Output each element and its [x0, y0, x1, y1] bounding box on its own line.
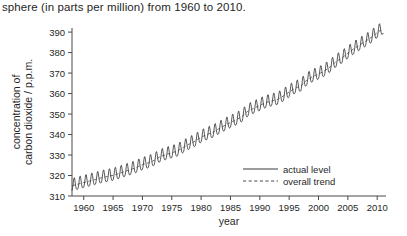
y-tick-label: 390 [49, 27, 65, 38]
chart-legend: actual level overall trend [243, 164, 335, 187]
x-axis-title: year [219, 215, 240, 227]
y-axis: 310320330340350360370380390 [49, 27, 72, 202]
x-tick-label: 2010 [367, 202, 388, 213]
legend-label-overall-trend: overall trend [283, 176, 335, 187]
x-tick-label: 1995 [279, 202, 300, 213]
y-tick-label: 310 [49, 191, 65, 202]
x-axis-tick-labels: 1960196519701975198019851990199520002005… [73, 202, 388, 213]
y-axis-tick-labels: 310320330340350360370380390 [49, 27, 65, 202]
x-tick-label: 1965 [103, 202, 124, 213]
y-tick-label: 340 [49, 129, 65, 140]
y-tick-label: 360 [49, 88, 65, 99]
figure-caption: sphere (in parts per million) from 1960 … [2, 1, 246, 13]
series-actual-level [72, 24, 383, 191]
x-tick-label: 1980 [191, 202, 212, 213]
x-axis-ticks [84, 196, 377, 200]
x-tick-label: 1990 [249, 202, 270, 213]
legend-label-actual-level: actual level [283, 164, 331, 175]
series-overall-trend [72, 29, 383, 186]
x-tick-label: 2005 [337, 202, 358, 213]
y-tick-label: 320 [49, 170, 65, 181]
x-tick-label: 1960 [73, 202, 94, 213]
x-tick-label: 1975 [161, 202, 182, 213]
y-axis-title-line2: carbon dioxide / p.p.m. [22, 59, 34, 165]
chart-svg: 310320330340350360370380390 196019651970… [0, 18, 407, 236]
co2-concentration-chart: 310320330340350360370380390 196019651970… [0, 18, 407, 236]
x-tick-label: 2000 [308, 202, 329, 213]
y-axis-title: concentration of carbon dioxide / p.p.m. [10, 59, 34, 165]
y-axis-title-line1: concentration of [10, 75, 22, 150]
y-tick-label: 350 [49, 109, 65, 120]
y-tick-label: 370 [49, 68, 65, 79]
x-tick-label: 1970 [132, 202, 153, 213]
x-axis: 1960196519701975198019851990199520002005… [72, 196, 388, 213]
y-tick-label: 380 [49, 47, 65, 58]
y-axis-ticks [68, 32, 72, 196]
y-tick-label: 330 [49, 150, 65, 161]
x-tick-label: 1985 [220, 202, 241, 213]
